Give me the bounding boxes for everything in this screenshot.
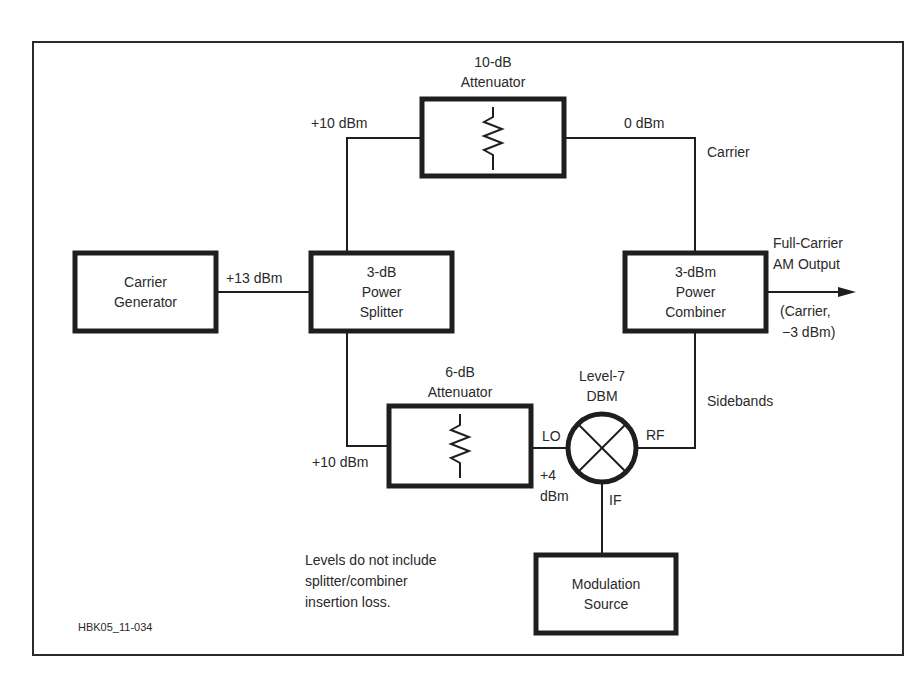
sidebands-signal-label: Sidebands xyxy=(707,391,773,411)
outer-frame xyxy=(33,42,903,655)
attenuator-10db-title-line-1: 10-dB xyxy=(422,52,564,72)
output-detail: (Carrier, −3 dBm) xyxy=(780,301,835,343)
lo-level: +4 dBm xyxy=(540,465,569,507)
modulation-source-line-1: Modulation xyxy=(572,574,641,594)
note-line-1: Levels do not include xyxy=(305,550,437,571)
power-splitter-line-1: 3-dB xyxy=(367,262,397,282)
modulation-source-line-2: Source xyxy=(584,594,628,614)
power-splitter-label: 3-dB Power Splitter xyxy=(311,253,452,331)
power-combiner-line-2: Power xyxy=(676,282,716,302)
attenuator-6db-title: 6-dB Attenuator xyxy=(389,362,531,402)
attenuator-10db-title: 10-dB Attenuator xyxy=(422,52,564,92)
carrier-generator-line-1: Carrier xyxy=(124,272,167,292)
resistor-icon xyxy=(484,107,502,170)
attenuator-10db-title-line-2: Attenuator xyxy=(422,72,564,92)
note-line-2: splitter/combiner xyxy=(305,571,437,592)
carrier-generator-label: Carrier Generator xyxy=(75,253,216,331)
wires xyxy=(218,138,842,553)
carrier-generator-line-2: Generator xyxy=(114,292,177,312)
lo-level-line-1: +4 xyxy=(540,465,569,486)
splitter-bottom-level: +10 dBm xyxy=(312,452,368,472)
mixer-title-line-1: Level-7 xyxy=(562,366,642,386)
carrier-signal-label: Carrier xyxy=(707,142,750,162)
output-detail-line-1: (Carrier, xyxy=(780,301,835,322)
power-splitter-line-2: Power xyxy=(362,282,402,302)
mixer-icon xyxy=(568,414,636,482)
output-arrow-icon xyxy=(838,287,856,297)
power-combiner-line-1: 3-dBm xyxy=(675,262,716,282)
figure-id: HBK05_11-034 xyxy=(78,617,152,637)
output-title-line-2: AM Output xyxy=(773,254,843,275)
lo-level-line-2: dBm xyxy=(540,486,569,507)
mixer-title: Level-7 DBM xyxy=(562,366,642,406)
output-detail-line-2: −3 dBm) xyxy=(780,322,835,343)
port-lo-label: LO xyxy=(542,426,561,446)
power-splitter-line-3: Splitter xyxy=(360,302,404,322)
splitter-top-level: +10 dBm xyxy=(311,113,367,133)
port-rf-label: RF xyxy=(646,425,665,445)
power-combiner-line-3: Combiner xyxy=(665,302,726,322)
mixer-title-line-2: DBM xyxy=(562,386,642,406)
port-if-label: IF xyxy=(609,490,621,510)
resistor-icon xyxy=(451,414,469,478)
diagram-canvas xyxy=(0,0,924,690)
output-title: Full-Carrier AM Output xyxy=(773,233,843,275)
note-line-3: insertion loss. xyxy=(305,592,437,613)
generator-out-level: +13 dBm xyxy=(226,268,282,288)
attenuator-6db-title-line-2: Attenuator xyxy=(389,382,531,402)
modulation-source-label: Modulation Source xyxy=(536,555,676,633)
attenuator-6db-title-line-1: 6-dB xyxy=(389,362,531,382)
insertion-loss-note: Levels do not include splitter/combiner … xyxy=(305,550,437,613)
output-title-line-1: Full-Carrier xyxy=(773,233,843,254)
attenuator-10-out-level: 0 dBm xyxy=(624,113,664,133)
power-combiner-label: 3-dBm Power Combiner xyxy=(625,253,766,331)
